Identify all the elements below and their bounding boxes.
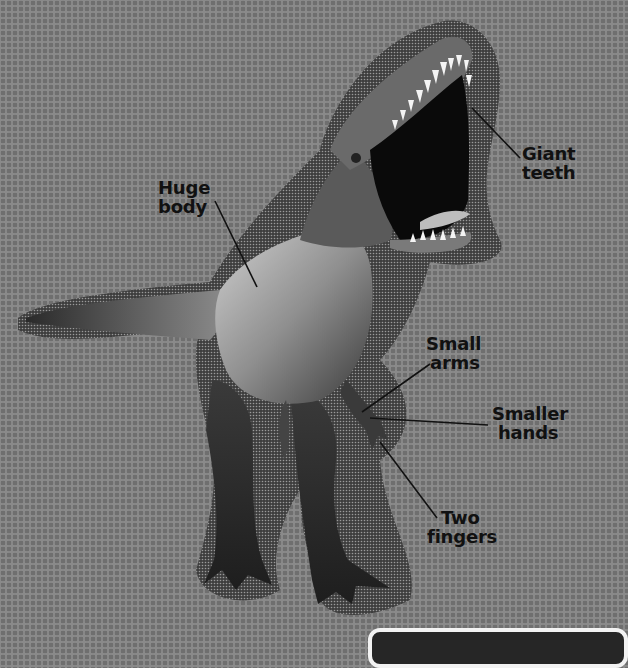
label-line: Huge xyxy=(158,178,210,197)
label-two-fingers: Two fingers xyxy=(427,508,497,546)
caption-box xyxy=(368,628,628,668)
eye xyxy=(351,153,361,163)
label-line: Giant xyxy=(522,144,576,163)
label-giant-teeth: Giant teeth xyxy=(522,144,576,182)
label-line: body xyxy=(158,197,210,216)
label-huge-body: Huge body xyxy=(158,178,210,216)
label-line: Two xyxy=(427,508,497,527)
label-line: teeth xyxy=(522,163,576,182)
label-line: Smaller xyxy=(492,404,568,423)
label-line: fingers xyxy=(427,527,497,546)
label-smaller-hands: Smaller hands xyxy=(492,404,568,442)
label-small-arms: Small arms xyxy=(426,334,481,372)
label-line: hands xyxy=(492,423,568,442)
label-line: Small xyxy=(426,334,481,353)
label-line: arms xyxy=(426,353,481,372)
